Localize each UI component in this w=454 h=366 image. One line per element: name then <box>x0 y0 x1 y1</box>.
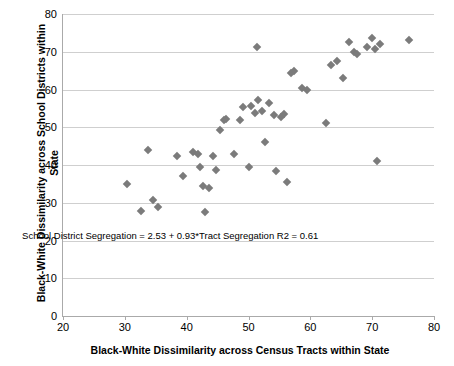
y-tick-label: 50 <box>45 121 57 133</box>
data-point <box>137 207 145 215</box>
x-tick-mark <box>187 316 188 320</box>
data-point <box>229 149 237 157</box>
data-point <box>179 172 187 180</box>
gridline-horizontal <box>63 52 434 53</box>
data-point <box>258 107 266 115</box>
data-point <box>196 162 204 170</box>
data-point <box>201 208 209 216</box>
data-point <box>339 74 347 82</box>
x-tick-mark <box>434 316 435 320</box>
data-point <box>209 152 217 160</box>
data-point <box>153 203 161 211</box>
x-tick-mark <box>125 316 126 320</box>
y-tick-label: 10 <box>45 272 57 284</box>
data-point <box>404 36 412 44</box>
x-tick-label: 20 <box>57 321 69 333</box>
gridline-horizontal <box>63 90 434 91</box>
y-tick-label: 30 <box>45 197 57 209</box>
data-point <box>368 34 376 42</box>
x-tick-label: 80 <box>428 321 440 333</box>
plot-area: 0102030405060708020304050607080 <box>62 14 434 317</box>
x-tick-label: 50 <box>242 321 254 333</box>
x-tick-label: 40 <box>181 321 193 333</box>
data-point <box>244 163 252 171</box>
gridline-horizontal <box>63 127 434 128</box>
gridline-horizontal <box>63 203 434 204</box>
x-tick-mark <box>310 316 311 320</box>
data-point <box>194 150 202 158</box>
data-point <box>236 115 244 123</box>
x-tick-label: 60 <box>304 321 316 333</box>
y-tick-label: 70 <box>45 46 57 58</box>
data-point <box>122 180 130 188</box>
x-axis-title: Black-White Dissimilarity across Census … <box>40 344 440 356</box>
data-point <box>205 184 213 192</box>
data-point <box>253 43 261 51</box>
y-tick-label: 60 <box>45 84 57 96</box>
data-point <box>260 138 268 146</box>
data-point <box>363 43 371 51</box>
x-tick-mark <box>249 316 250 320</box>
data-point <box>173 152 181 160</box>
x-tick-mark <box>63 316 64 320</box>
x-tick-mark <box>372 316 373 320</box>
regression-equation-annotation: School District Segregation = 2.53 + 0.9… <box>22 229 318 240</box>
gridline-horizontal <box>63 278 434 279</box>
data-point <box>272 167 280 175</box>
y-tick-label: 80 <box>45 8 57 20</box>
data-point <box>283 178 291 186</box>
data-point <box>265 98 273 106</box>
data-point <box>239 103 247 111</box>
data-point <box>254 96 262 104</box>
data-point <box>344 38 352 46</box>
y-tick-label: 40 <box>45 159 57 171</box>
x-tick-label: 70 <box>366 321 378 333</box>
gridline-horizontal <box>63 241 434 242</box>
data-point <box>212 165 220 173</box>
data-point <box>322 118 330 126</box>
scatter-plot-figure: Black-White Dissimilarity across School … <box>0 0 454 366</box>
data-point <box>144 146 152 154</box>
gridline-horizontal <box>63 14 434 15</box>
x-tick-label: 30 <box>119 321 131 333</box>
